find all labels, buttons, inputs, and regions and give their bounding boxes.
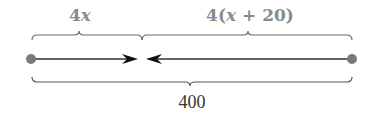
total-distance-label: 400 (179, 92, 206, 112)
right-segment-label: 4(x + 20) (206, 5, 294, 25)
right-endpoint-dot (347, 54, 357, 64)
left-segment-label: 4x (69, 5, 92, 25)
left-endpoint-dot (26, 54, 36, 64)
brace-total (32, 77, 352, 86)
brace-left-segment (32, 31, 142, 40)
distance-diagram: 4x 4(x + 20) 400 (0, 0, 374, 115)
brace-right-segment (142, 31, 352, 40)
